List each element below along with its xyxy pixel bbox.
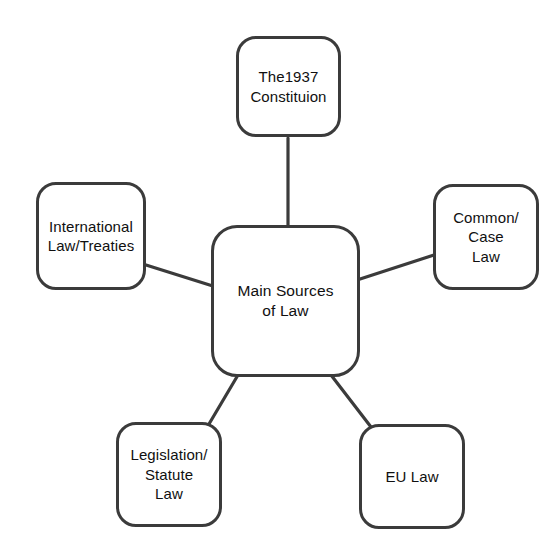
node-label-common-case-law: Common/ Case Law (449, 208, 523, 267)
diagram-canvas: The1937 Constituion International Law/Tr… (0, 0, 559, 553)
node-common-case-law[interactable]: Common/ Case Law (433, 184, 539, 290)
edge-center-to-common-case-law (357, 255, 434, 280)
node-legislation-statute-law[interactable]: Legislation/ Statute Law (116, 422, 222, 527)
node-label-the-1937-constitution: The1937 Constituion (246, 67, 330, 106)
node-label-international-law-treaties: International Law/Treaties (44, 217, 139, 256)
node-main-sources-of-law[interactable]: Main Sources of Law (211, 225, 360, 377)
node-eu-law[interactable]: EU Law (359, 424, 465, 529)
node-the-1937-constitution[interactable]: The1937 Constituion (236, 36, 341, 137)
node-label-main-sources-of-law: Main Sources of Law (234, 281, 338, 321)
node-international-law-treaties[interactable]: International Law/Treaties (36, 182, 146, 290)
node-label-legislation-statute-law: Legislation/ Statute Law (126, 445, 211, 504)
edge-center-to-eu-law (331, 375, 371, 427)
node-label-eu-law: EU Law (381, 467, 442, 487)
edge-center-to-legislation (209, 375, 238, 424)
edge-center-to-international-law (146, 265, 216, 287)
